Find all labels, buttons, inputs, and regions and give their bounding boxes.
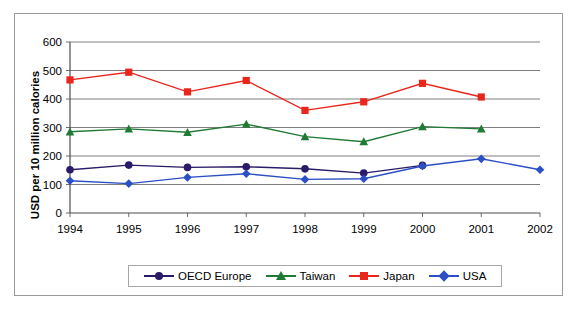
data-series-layer	[66, 69, 545, 188]
legend-marker	[360, 272, 368, 280]
x-axis-tick-label: 1994	[57, 223, 83, 235]
data-point-marker	[183, 173, 192, 182]
data-point-marker	[242, 120, 251, 128]
chart-frame: USD per 10 million calories 010020030040…	[14, 13, 563, 296]
y-axis-tick-labels: 0100200300400500600	[43, 36, 62, 219]
x-axis-ticks	[70, 213, 540, 217]
x-axis-tick-label: 1998	[292, 223, 318, 235]
legend-marker-triangle-icon	[266, 270, 296, 282]
x-axis-tick-label: 2002	[527, 223, 553, 235]
legend-item-label: Taiwan	[300, 270, 336, 282]
legend-marker	[276, 271, 286, 280]
legend-marker-circle-icon	[144, 270, 174, 282]
series-line	[70, 72, 481, 110]
data-point-marker	[419, 80, 426, 87]
line-chart-plot: USD per 10 million calories 010020030040…	[15, 14, 562, 295]
y-axis-tick-label: 100	[43, 179, 62, 191]
x-axis-tick-label: 1999	[351, 223, 377, 235]
x-axis-tick-label: 1997	[233, 223, 259, 235]
data-point-marker	[478, 93, 485, 100]
data-point-marker	[125, 69, 132, 76]
data-point-marker	[418, 162, 427, 171]
series-line	[70, 124, 481, 142]
y-axis-title: USD per 10 million calories	[29, 71, 41, 219]
data-point-marker	[242, 169, 251, 178]
data-point-marker	[125, 161, 133, 169]
legend-item-label: Japan	[383, 270, 414, 282]
x-axis-tick-label: 2000	[410, 223, 436, 235]
data-point-marker	[184, 164, 192, 172]
legend-item[interactable]: Taiwan	[266, 270, 336, 282]
legend-marker	[155, 272, 163, 280]
y-axis-tick-label: 400	[43, 93, 62, 105]
data-point-marker	[66, 76, 73, 83]
data-point-marker	[359, 175, 368, 184]
y-axis-tick-label: 0	[56, 207, 62, 219]
data-series	[66, 69, 484, 114]
data-point-marker	[536, 165, 545, 174]
legend-item[interactable]: OECD Europe	[144, 270, 252, 282]
legend-marker-square-icon	[349, 270, 379, 282]
legend-item-label: OECD Europe	[178, 270, 252, 282]
x-axis-tick-labels: 199419951996199719981999200020012002	[57, 223, 553, 235]
data-point-marker	[66, 177, 75, 186]
data-point-marker	[184, 88, 191, 95]
data-point-marker	[301, 107, 308, 114]
x-axis-tick-label: 1995	[116, 223, 142, 235]
data-series	[66, 120, 486, 146]
y-axis-tick-label: 200	[43, 150, 62, 162]
data-point-marker	[301, 165, 309, 173]
legend-item[interactable]: USA	[429, 270, 487, 282]
y-axis-tick-label: 500	[43, 65, 62, 77]
data-point-marker	[360, 98, 367, 105]
legend-marker	[438, 270, 449, 281]
x-axis-tick-label: 2001	[468, 223, 494, 235]
legend-item[interactable]: Japan	[349, 270, 414, 282]
chart-legend: OECD EuropeTaiwanJapanUSA	[128, 265, 502, 287]
legend-item-label: USA	[463, 270, 487, 282]
legend-marker-diamond-icon	[429, 270, 459, 282]
y-axis-tick-label: 300	[43, 122, 62, 134]
x-axis-tick-label: 1996	[175, 223, 201, 235]
data-point-marker	[243, 77, 250, 84]
y-axis-tick-label: 600	[43, 36, 62, 48]
data-point-marker	[125, 179, 134, 188]
data-point-marker	[66, 166, 74, 174]
data-point-marker	[301, 175, 310, 184]
